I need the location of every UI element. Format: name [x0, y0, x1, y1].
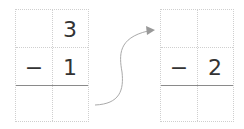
transform-arrow-icon	[0, 0, 244, 129]
